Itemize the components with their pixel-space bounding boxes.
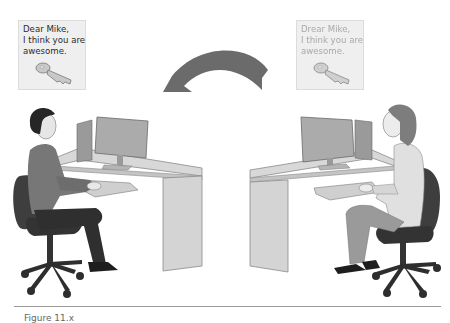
left-workstation	[13, 108, 202, 298]
key-icon	[35, 61, 75, 87]
note-line: awesome.	[301, 46, 359, 57]
note-line: I think you are	[301, 35, 359, 46]
curved-arrow-left-icon	[163, 50, 268, 92]
note-line: Drear Mike,	[301, 24, 359, 35]
computer-tower-icon	[355, 120, 372, 160]
note-line: I think you are	[23, 35, 81, 46]
note-line: Dear Mike,	[23, 24, 81, 35]
receiver-note: Drear Mike, I think you are awesome.	[296, 20, 364, 90]
key-icon	[313, 61, 353, 87]
figure-caption: Figure 11.x	[24, 313, 74, 323]
right-workstation	[250, 104, 441, 298]
caption-divider	[14, 306, 441, 307]
sender-note: Dear Mike, I think you are awesome.	[18, 20, 86, 90]
note-line: awesome.	[23, 46, 81, 57]
computer-tower-icon	[77, 120, 92, 162]
